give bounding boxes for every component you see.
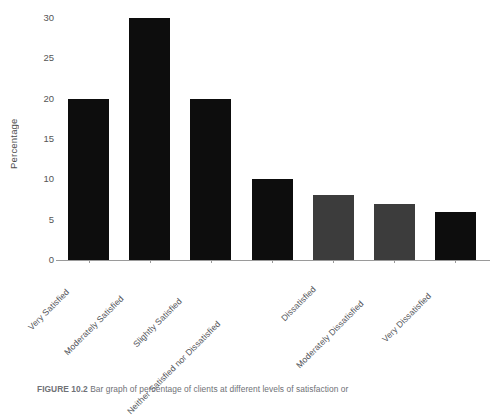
x-tick-mark [150,260,151,263]
y-axis-label: Percentage [8,96,24,192]
x-axis-line [56,260,490,261]
y-axis-ticks: 051015202530 [28,18,54,260]
x-tick-mark [272,260,273,263]
x-tick-mark [333,260,334,263]
bar [313,195,354,260]
x-tick-mark [455,260,456,263]
x-tick-label: Very Satisfied [26,287,71,332]
bars-layer [58,18,486,260]
y-tick-label: 10 [32,175,54,185]
bar [68,99,109,260]
bar [374,204,415,260]
x-tick-label: Very Dissatisfied [380,291,433,344]
x-tick-mark [211,260,212,263]
bar [190,99,231,260]
y-tick-label: 20 [32,94,54,104]
figure-caption-text: Bar graph of percentage of clients at di… [90,384,348,394]
x-tick-label: Moderately Dissatisfied [294,298,366,370]
x-tick-label: Moderately Satisfied [62,294,126,358]
figure-caption-number: FIGURE 10.2 [37,384,88,394]
x-tick-mark [89,260,90,263]
y-tick-label: 0 [32,255,54,265]
bar [129,18,170,260]
y-tick-label: 30 [32,13,54,23]
x-tick-label: Dissatisfied [279,284,318,323]
bar [252,179,293,260]
x-tick-label: Slightly Satisfied [131,296,184,349]
x-tick-mark [394,260,395,263]
y-tick-label: 25 [32,54,54,64]
bar [435,212,476,260]
figure-caption: FIGURE 10.2 Bar graph of percentage of c… [37,384,487,395]
y-tick-label: 15 [32,134,54,144]
y-tick-label: 5 [32,215,54,225]
